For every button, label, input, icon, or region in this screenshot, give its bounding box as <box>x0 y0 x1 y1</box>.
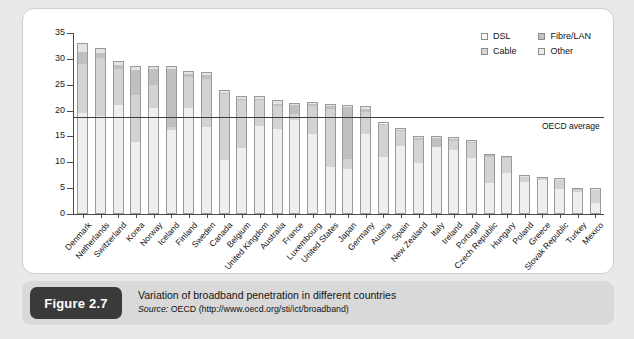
figure-caption-bar: Figure 2.7 Variation of broadband penetr… <box>22 281 614 325</box>
figure-number-badge: Figure 2.7 <box>30 287 122 319</box>
y-tick <box>67 85 73 86</box>
y-tick-label: 5 <box>49 183 65 192</box>
chart-panel: DSLFibre/LANCableOther 05101520253035 De… <box>22 8 614 274</box>
y-tick <box>67 162 73 163</box>
bar-segment-cable <box>131 95 140 141</box>
plot-area: 05101520253035 DenmarkNetherlandsSwitzer… <box>49 27 605 261</box>
bar-iceland <box>166 66 177 214</box>
bar-segment-dsl <box>449 150 458 213</box>
bar-new-zealand <box>413 136 424 214</box>
bar-segment-dsl <box>78 113 87 213</box>
bar-segment-cable <box>220 94 229 160</box>
y-tick <box>67 214 73 215</box>
y-tick-label: 10 <box>49 157 65 166</box>
bar-segment-cable <box>555 180 564 188</box>
bar-segment-cable <box>379 125 388 157</box>
bar-segment-cable <box>361 112 370 134</box>
bar-segment-cable <box>449 141 458 150</box>
bar-segment-cable <box>396 131 405 146</box>
bar-switzerland <box>113 61 124 214</box>
y-tick <box>67 59 73 60</box>
bar-segment-cable <box>184 77 193 108</box>
bar-segment-cable <box>202 79 211 127</box>
bar-netherlands <box>95 48 106 214</box>
bar-sweden <box>201 72 212 214</box>
bar-segment-fibre-lan <box>131 70 140 96</box>
bar-segment-cable <box>96 58 105 116</box>
bar-segment-fibre-lan <box>149 69 158 85</box>
bar-segment-other <box>78 44 87 52</box>
y-tick-label: 15 <box>49 131 65 140</box>
figure-source-text: Source: OECD (http://www.oecd.org/sti/ic… <box>138 303 604 315</box>
bar-segment-cable <box>485 157 494 183</box>
bar-segment-cable <box>255 100 264 126</box>
bar-segment-cable <box>343 159 352 170</box>
bar-finland <box>183 71 194 214</box>
x-tick <box>83 214 84 218</box>
bar-segment-fibre-lan <box>432 138 441 147</box>
bar-united-states <box>325 104 336 214</box>
bar-luxembourg <box>307 102 318 214</box>
bar-segment-fibre-lan <box>343 107 352 158</box>
y-tick <box>67 136 73 137</box>
bar-united-kingdom <box>254 96 265 214</box>
bar-segment-cable <box>149 85 158 108</box>
bar-segment-cable <box>308 106 317 134</box>
oecd-average-label: OECD average <box>542 121 600 131</box>
bar-segment-cable <box>414 140 423 163</box>
y-tick-label: 0 <box>49 209 65 218</box>
bar-segment-cable <box>114 69 123 105</box>
y-tick <box>67 188 73 189</box>
bar-belgium <box>236 96 247 214</box>
y-tick-label: 35 <box>49 28 65 37</box>
bar-segment-cable <box>237 100 246 148</box>
bar-segment-dsl <box>114 105 123 213</box>
bar-segment-cable <box>502 158 511 173</box>
bar-canada <box>219 90 230 214</box>
bar-segment-fibre-lan <box>78 52 87 64</box>
y-tick <box>67 33 73 34</box>
y-tick-label: 20 <box>49 106 65 115</box>
bar-segment-cable <box>78 64 87 113</box>
bar-segment-fibre-lan <box>167 69 176 128</box>
y-tick-label: 25 <box>49 80 65 89</box>
figure-caption-text: Variation of broadband penetration in di… <box>138 289 604 302</box>
bar-segment-dsl <box>184 108 193 213</box>
bar-denmark <box>77 43 88 214</box>
source-prefix: Source: <box>138 304 171 314</box>
bar-segment-fibre-lan <box>290 105 299 114</box>
source-url: OECD (http://www.oecd.org/sti/ict/broadb… <box>171 304 349 314</box>
oecd-average-line <box>74 117 604 118</box>
figure-root: DSLFibre/LANCableOther 05101520253035 De… <box>0 0 634 339</box>
y-tick-label: 30 <box>49 54 65 63</box>
y-tick <box>67 111 73 112</box>
bar-segment-cable <box>467 143 476 158</box>
